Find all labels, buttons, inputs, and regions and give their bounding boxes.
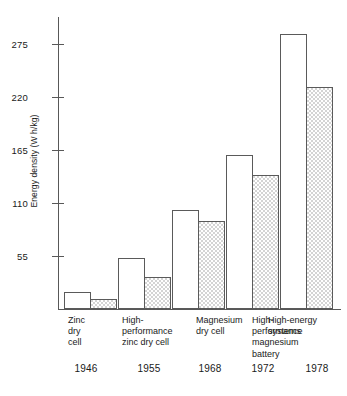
category-line: High-energy	[268, 315, 317, 326]
bar-open-1955	[118, 258, 145, 309]
category-line: magnesium	[252, 337, 303, 348]
bar-shaded-1946	[90, 299, 117, 309]
category-label-high-energy-systems: High-energy systems	[268, 315, 317, 337]
bar-chart: Energy density (W h/kg) 275 220 165 110 …	[0, 0, 347, 396]
bar-group-1946	[64, 17, 118, 309]
category-line: zinc dry cell	[122, 337, 173, 348]
y-axis-title: Energy density (W h/kg)	[29, 81, 39, 241]
category-line: Magnesium	[196, 315, 243, 326]
bar-shaded-1972	[252, 175, 279, 309]
y-tick-label-220: 220	[0, 92, 28, 103]
year-label-1955: 1955	[129, 363, 169, 374]
y-tick-label-165: 165	[0, 145, 28, 156]
y-tick-label-110: 110	[0, 198, 28, 209]
bar-shaded-1968	[198, 221, 225, 309]
bar-group-1955	[118, 17, 172, 309]
plot-area	[58, 17, 341, 309]
year-label-1978: 1978	[297, 363, 337, 374]
category-line: High-	[122, 315, 173, 326]
category-line: dry	[68, 326, 85, 337]
category-line: cell	[68, 337, 85, 348]
category-line: systems	[268, 326, 317, 337]
bar-shaded-1955	[144, 277, 171, 309]
bar-group-1978	[280, 17, 334, 309]
category-label-zinc-dry-cell: Zinc dry cell	[68, 315, 85, 349]
year-label-1946: 1946	[66, 363, 106, 374]
y-tick-label-275: 275	[0, 39, 28, 50]
bar-open-1978	[280, 34, 307, 309]
bar-open-1946	[64, 292, 91, 309]
category-line: battery	[252, 349, 303, 360]
bar-shaded-1978	[306, 87, 333, 309]
y-tick-label-55: 55	[0, 251, 28, 262]
bar-group-1972	[226, 17, 280, 309]
x-axis-line	[58, 309, 341, 310]
category-label-magnesium-dry-cell: Magnesium dry cell	[196, 315, 243, 337]
bar-open-1968	[172, 210, 199, 309]
bar-group-1968	[172, 17, 226, 309]
category-label-high-performance-zinc-dry-cell: High- performance zinc dry cell	[122, 315, 173, 349]
category-line: performance	[122, 326, 173, 337]
year-label-1968: 1968	[190, 363, 230, 374]
year-label-1972: 1972	[243, 363, 283, 374]
bar-open-1972	[226, 155, 253, 309]
category-line: dry cell	[196, 326, 243, 337]
category-line: Zinc	[68, 315, 85, 326]
